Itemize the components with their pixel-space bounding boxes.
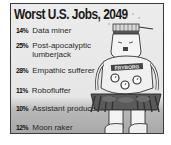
- list-item: 11%Robofluffer: [16, 86, 71, 95]
- steam-icon: [108, 13, 140, 25]
- list-item: 14%Data miner: [16, 26, 71, 35]
- percent-value: 28%: [16, 66, 28, 75]
- percent-value: 10%: [16, 104, 28, 113]
- list-item: 10%Assistant producer: [16, 104, 98, 113]
- list-item: 25%Post-apocalypticlumberjack: [16, 41, 91, 59]
- infographic-frame: Worst U.S. Jobs, 2049 14%Data miner 25%P…: [10, 3, 164, 134]
- job-label: Moon raker: [32, 123, 72, 132]
- job-label: Robofluffer: [32, 86, 71, 95]
- job-label: Post-apocalyptic: [32, 41, 91, 50]
- percent-value: 12%: [16, 123, 28, 132]
- list-item: 12%Moon raker: [16, 123, 73, 132]
- job-label: Data miner: [32, 26, 71, 35]
- percent-value: 25%: [16, 41, 28, 50]
- percent-value: 14%: [16, 26, 28, 35]
- job-label-line2: lumberjack: [32, 50, 71, 59]
- percent-value: 11%: [16, 86, 28, 95]
- list-item: 28%Empathic sufferer: [16, 66, 95, 75]
- job-label: Empathic sufferer: [32, 66, 95, 75]
- robot-illustration: FRYBORG: [89, 12, 164, 134]
